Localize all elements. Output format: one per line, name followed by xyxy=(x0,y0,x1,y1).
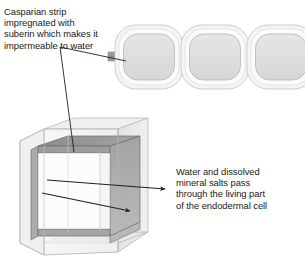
endodermal-cell-1 xyxy=(115,25,183,89)
endodermal-cell-2 xyxy=(181,25,249,89)
endodermal-cell-row xyxy=(108,25,305,89)
water-pathway-annotation: Water and dissolved mineral salts pass t… xyxy=(176,166,267,211)
casparian-strip-annotation: Casparian strip impregnated with suberin… xyxy=(4,6,98,51)
diagram-canvas: Casparian strip impregnated with suberin… xyxy=(0,0,305,268)
endodermal-cell-3 xyxy=(247,25,305,89)
